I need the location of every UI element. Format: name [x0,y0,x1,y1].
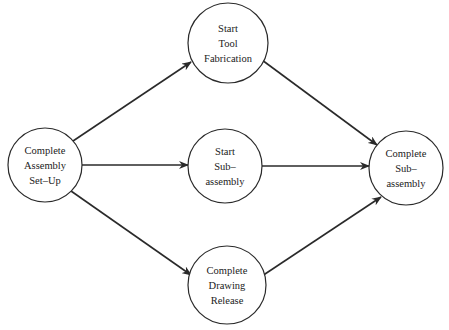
arrow-n1-to-n4 [71,191,191,275]
node-label-line: Sub– [205,159,244,174]
node-label-line: Complete [386,146,427,161]
node-label-line: Sub– [386,161,427,176]
node-label-start-sub-assembly: StartSub–assembly [205,144,244,189]
node-label-complete-assembly-set-up: CompleteAssemblySet–Up [24,143,66,188]
arrow-n1-to-n2 [73,62,191,141]
node-label-line: Complete [24,143,66,158]
node-label-line: Release [207,293,248,308]
node-label-complete-sub-assembly: CompleteSub–assembly [386,146,427,191]
node-label-line: Tool [204,36,252,51]
node-label-line: Complete [207,263,248,278]
node-label-line: Fabrication [204,51,252,66]
node-label-line: Assembly [24,158,66,173]
arrow-n4-to-n5 [262,197,381,276]
node-label-complete-drawing-release: CompleteDrawingRelease [207,263,248,308]
node-label-line: assembly [386,176,427,191]
node-label-line: Start [204,21,252,36]
node-label-line: assembly [205,174,244,189]
node-label-line: Set–Up [24,173,66,188]
node-label-start-tool-fabrication: StartToolFabrication [204,21,252,66]
node-label-line: Start [205,144,244,159]
arrow-n2-to-n5 [262,60,377,145]
node-label-line: Drawing [207,278,248,293]
